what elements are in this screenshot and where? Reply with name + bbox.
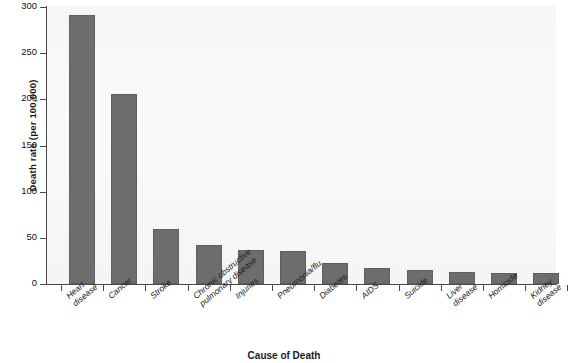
x-tick-mark [272,285,273,291]
x-tick-mark [103,285,104,291]
x-tick-mark [145,285,146,291]
y-tick-label: 250 [21,46,37,57]
y-tick-mark [40,238,47,239]
y-tick-mark [40,99,47,100]
bar [153,229,179,284]
y-tick-label: 50 [26,231,37,242]
bar [111,94,137,284]
y-axis-title: Death rate (per 100,000) [27,41,38,231]
x-tick-mark [483,285,484,291]
y-tick-mark [40,192,47,193]
y-tick: 300 [0,7,47,8]
y-tick: 200 [0,99,47,100]
x-tick-mark [188,285,189,291]
bar-chart-figure: Death rate (per 100,000) 050100150200250… [0,0,568,363]
y-tick-label: 100 [21,185,37,196]
x-axis-title: Cause of Death [0,350,568,361]
x-tick-mark [314,285,315,291]
y-tick-label: 300 [21,0,37,11]
y-tick-mark [40,7,47,8]
y-tick-mark [40,146,47,147]
y-tick-label: 0 [32,277,37,288]
y-tick: 100 [0,192,47,193]
y-tick: 50 [0,238,47,239]
bar [69,15,95,284]
y-tick: 150 [0,146,47,147]
x-tick-mark [399,285,400,291]
y-tick: 250 [0,53,47,54]
y-tick-mark [40,284,47,285]
bar [364,268,390,284]
x-tick-mark [441,285,442,291]
y-tick-label: 200 [21,92,37,103]
x-tick-mark [61,285,62,291]
x-tick-mark [356,285,357,291]
y-tick: 0 [0,284,47,285]
y-tick-mark [40,53,47,54]
y-tick-label: 150 [21,139,37,150]
x-tick-mark [525,285,526,291]
